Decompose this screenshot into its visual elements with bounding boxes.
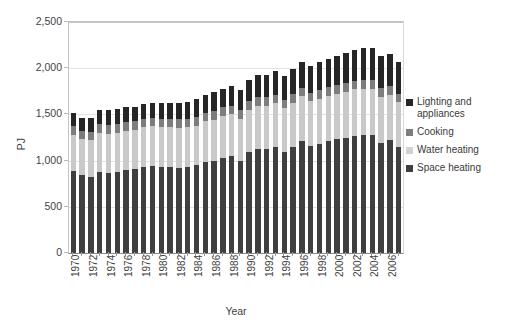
bar-column[interactable] [185,102,190,253]
bar-segment [176,128,181,168]
bar-column[interactable] [378,56,383,253]
bar-segment [352,89,357,135]
legend-item[interactable]: Cooking [406,126,505,138]
legend-item[interactable]: Space heating [406,162,505,174]
bar-column[interactable] [211,92,216,253]
x-axis-tick-labels: 1970197219741976197819801982198419861988… [68,256,404,300]
bar-segment [308,66,313,93]
bar-column[interactable] [203,95,208,253]
bar-segment [308,93,313,102]
legend-item[interactable]: Water heating [406,144,505,156]
bar-segment [132,121,137,130]
x-tick-label: 1990 [247,255,257,277]
x-tick-label: 1980 [159,255,169,277]
bar-column[interactable] [326,59,331,253]
bar-column[interactable] [194,99,199,253]
bar-column[interactable] [308,66,313,253]
bar-column[interactable] [71,113,76,253]
bar-column[interactable] [97,110,102,253]
bar-segment [326,96,331,141]
bar-column[interactable] [334,56,339,253]
bar-segment [97,133,102,172]
bar-segment [290,103,295,147]
bar-segment [79,118,84,131]
legend-item[interactable]: Lighting and appliances [406,96,505,120]
bar-segment [343,92,348,138]
bar-column[interactable] [150,103,155,253]
bar-segment [203,113,208,122]
bar-segment [299,141,304,253]
x-axis-title: Year [68,305,404,317]
bar-segment [238,119,243,161]
bar-segment [317,144,322,253]
bar-segment [141,119,146,128]
x-tick-label: 1984 [194,255,204,277]
bar-column[interactable] [229,86,234,253]
bar-segment [159,103,164,118]
bar-column[interactable] [167,103,172,253]
bar-column[interactable] [352,50,357,253]
bar-column[interactable] [79,118,84,253]
bar-segment [123,107,128,122]
bar-column[interactable] [141,104,146,253]
bar-segment [159,167,164,253]
bar-segment [123,131,128,170]
legend-swatch-icon [406,99,413,106]
bar-column[interactable] [176,103,181,253]
bar-segment [141,104,146,118]
bar-segment [71,126,76,135]
bar-column[interactable] [396,62,401,253]
bar-segment [167,103,172,119]
bar-column[interactable] [132,107,137,253]
bar-segment [79,131,84,140]
y-tick-label: 0 [20,247,62,257]
bar-segment [88,140,93,177]
bar-segment [246,80,251,101]
bar-column[interactable] [88,118,93,253]
x-tick-label: 1992 [265,255,275,277]
bar-segment [106,173,111,253]
bar-column[interactable] [264,75,269,253]
bar-segment [290,69,295,94]
bar-column[interactable] [246,80,251,253]
bar-column[interactable] [159,103,164,253]
bar-column[interactable] [282,76,287,253]
bar-column[interactable] [115,109,120,253]
bar-segment [185,102,190,119]
x-tick-label: 1978 [142,255,152,277]
bar-segment [387,54,392,86]
bar-segment [343,53,348,83]
bar-segment [167,167,172,253]
bar-column[interactable] [255,75,260,253]
x-tick-label: 1988 [230,255,240,277]
bar-column[interactable] [317,62,322,253]
bar-segment [88,177,93,253]
bar-column[interactable] [123,107,128,253]
bar-segment [79,175,84,253]
bar-column[interactable] [106,110,111,253]
bar-segment [115,133,120,172]
bar-segment [106,110,111,125]
bar-column[interactable] [299,62,304,253]
bar-segment [361,89,366,135]
bar-column[interactable] [343,53,348,253]
bar-segment [378,88,383,97]
bar-segment [106,125,111,134]
bar-column[interactable] [238,90,243,253]
bar-column[interactable] [361,48,366,253]
bar-column[interactable] [370,48,375,253]
bar-column[interactable] [220,89,225,253]
bar-column[interactable] [273,71,278,253]
bar-segment [273,147,278,253]
x-tick-label: 1994 [282,255,292,277]
bar-segment [132,130,137,169]
bar-column[interactable] [290,69,295,253]
x-tick-label: 1998 [318,255,328,277]
bar-segment [159,119,164,128]
bar-segment [264,75,269,98]
bar-segment [290,94,295,103]
bar-segment [299,96,304,140]
bar-column[interactable] [387,54,392,253]
y-tick-label: 1,000 [20,155,62,165]
x-tick-label: 1972 [89,255,99,277]
